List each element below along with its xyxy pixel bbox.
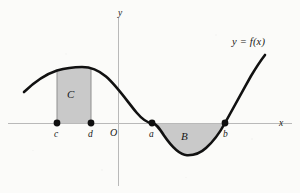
function-graph-figure: y x O c d a b C B y = f(x) — [0, 0, 300, 193]
tick-label-d: d — [88, 130, 93, 140]
tick-label-a: a — [149, 130, 154, 140]
y-axis-label: y — [118, 9, 122, 19]
tick-label-c: c — [54, 130, 58, 140]
function-label: y = f(x) — [232, 37, 265, 48]
marker-dot-a — [149, 120, 156, 127]
graph-canvas — [0, 0, 300, 193]
marker-dot-b — [222, 120, 229, 127]
marker-dot-c — [54, 120, 61, 127]
x-axis-label: x — [279, 119, 283, 129]
marker-dot-d — [88, 120, 95, 127]
origin-label: O — [110, 128, 117, 138]
tick-label-b: b — [223, 130, 228, 140]
region-label-C: C — [67, 89, 74, 100]
region-label-B: B — [181, 131, 188, 142]
